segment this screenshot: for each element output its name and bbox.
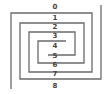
crossing-label-6: 6 — [49, 61, 61, 69]
crossing-label-8: 8 — [49, 82, 61, 90]
crossing-label-3: 3 — [49, 32, 61, 40]
crossing-label-2: 2 — [49, 23, 61, 31]
crossing-label-0: 0 — [49, 3, 61, 11]
crossing-label-4: 4 — [49, 42, 61, 50]
spiral-diagram: 0 1 2 3 4 5 6 7 8 — [0, 0, 110, 94]
crossing-label-7: 7 — [49, 70, 61, 78]
crossing-label-1: 1 — [49, 14, 61, 22]
crossing-label-5: 5 — [49, 52, 61, 60]
